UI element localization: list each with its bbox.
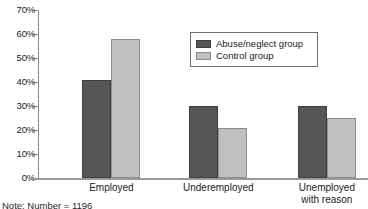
legend-item-control-group: Control group <box>196 50 312 61</box>
category-label-2: Unemployed with reason <box>272 182 368 205</box>
bar-chart: 70%60%50%40%30%20%10%0% EmployedUnderemp… <box>0 0 368 209</box>
legend-item-abuse-neglect-group: Abuse/neglect group <box>196 38 312 49</box>
bar-0-1 <box>111 39 140 178</box>
bar-2-1 <box>327 118 356 178</box>
y-axis-tick-label: 70% <box>3 5 35 15</box>
legend-label-abuse-neglect: Abuse/neglect group <box>216 39 303 49</box>
y-axis-tick-label: 20% <box>3 125 35 135</box>
y-axis-tick-label: 50% <box>3 53 35 63</box>
category-label-1: Underemployed <box>163 182 273 194</box>
x-axis-line <box>30 178 368 180</box>
chart-legend: Abuse/neglect group Control group <box>190 32 318 67</box>
bar-0-0 <box>82 80 111 178</box>
bar-2-0 <box>298 106 327 178</box>
y-axis-tick-label: 30% <box>3 101 35 111</box>
legend-swatch-icon-abuse-neglect <box>196 40 211 48</box>
bar-1-1 <box>218 128 247 178</box>
legend-swatch-icon-control <box>196 52 211 60</box>
legend-label-control: Control group <box>216 51 274 61</box>
category-label-0: Employed <box>56 182 166 194</box>
y-axis-tick-label: 60% <box>3 29 35 39</box>
chart-footnote: Note: Number = 1196 <box>2 200 92 209</box>
bar-1-0 <box>189 106 218 178</box>
y-axis-tick-label: 40% <box>3 77 35 87</box>
y-axis-tick-label: 10% <box>3 149 35 159</box>
